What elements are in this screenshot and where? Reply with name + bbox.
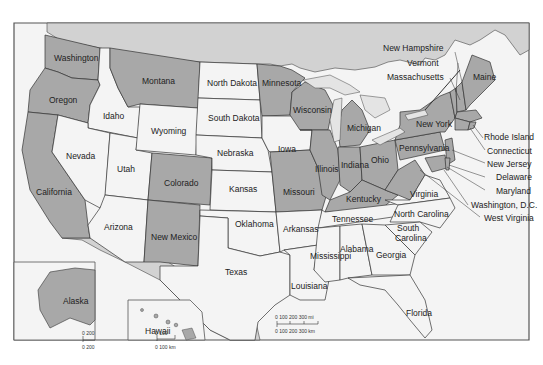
label-delaware: Delaware: [496, 173, 532, 182]
label-pennsylvania: Pennsylvania: [399, 144, 450, 153]
label-new-york: New York: [416, 120, 452, 129]
label-south-carolina-line2: Carolina: [395, 234, 427, 243]
label-colorado: Colorado: [164, 179, 199, 188]
label-north-dakota: North Dakota: [207, 79, 257, 88]
label-nebraska: Nebraska: [217, 149, 253, 158]
label-idaho: Idaho: [103, 112, 124, 121]
scale-hawaii-km: 0 100 km: [155, 344, 176, 350]
label-oklahoma: Oklahoma: [235, 220, 274, 229]
label-tennessee: Tennessee: [332, 215, 373, 224]
label-maryland: Maryland: [496, 187, 531, 196]
scale-main-miles: 0 100 200 300 mi: [275, 314, 314, 320]
scale-main-km: 0 100 200 300 km: [275, 328, 315, 334]
label-virginia: Virginia: [410, 190, 438, 199]
label-michigan: Michigan: [347, 124, 381, 133]
label-arizona: Arizona: [104, 223, 133, 232]
scale-alaska-miles: 0 200: [82, 330, 95, 336]
label-new-jersey: New Jersey: [487, 160, 531, 169]
scale-hawaii-miles: 0 100: [155, 330, 168, 336]
label-iowa: Iowa: [278, 145, 296, 154]
label-missouri: Missouri: [283, 188, 315, 197]
label-north-carolina: North Carolina: [394, 210, 449, 219]
label-indiana: Indiana: [341, 161, 369, 170]
label-california: California: [36, 188, 72, 197]
label-nevada: Nevada: [66, 152, 95, 161]
label-connecticut: Connecticut: [487, 147, 532, 156]
label-alabama: Alabama: [340, 245, 374, 254]
label-maine: Maine: [473, 73, 496, 82]
label-vermont: Vermont: [407, 59, 439, 68]
label-kansas: Kansas: [229, 185, 257, 194]
label-rhode-island: Rhode Island: [484, 133, 534, 142]
scale-alaska-km: 0 200: [82, 344, 95, 350]
label-ohio: Ohio: [371, 156, 389, 165]
label-montana: Montana: [142, 77, 175, 86]
label-minnesota: Minnesota: [262, 79, 301, 88]
label-new-hampshire: New Hampshire: [383, 44, 443, 53]
label-washington-dc: Washington, D.C.: [471, 201, 537, 210]
label-florida: Florida: [406, 309, 432, 318]
label-oregon: Oregon: [49, 96, 77, 105]
label-wisconsin: Wisconsin: [293, 106, 332, 115]
label-massachusetts: Massachusetts: [387, 73, 444, 82]
label-alaska: Alaska: [63, 297, 89, 306]
label-texas: Texas: [225, 268, 247, 277]
label-georgia: Georgia: [376, 251, 406, 260]
label-west-virginia: West Virginia: [484, 214, 534, 223]
label-arkansas: Arkansas: [283, 225, 318, 234]
label-south-dakota: South Dakota: [208, 114, 260, 123]
label-south-carolina-line1: South: [397, 224, 419, 233]
label-utah: Utah: [117, 165, 135, 174]
label-louisiana: Louisiana: [291, 282, 327, 291]
label-wyoming: Wyoming: [151, 127, 186, 136]
label-kentucky: Kentucky: [346, 195, 381, 204]
label-new-mexico: New Mexico: [151, 233, 197, 242]
label-illinois: Illinois: [315, 165, 339, 174]
label-washington: Washington: [54, 54, 99, 63]
